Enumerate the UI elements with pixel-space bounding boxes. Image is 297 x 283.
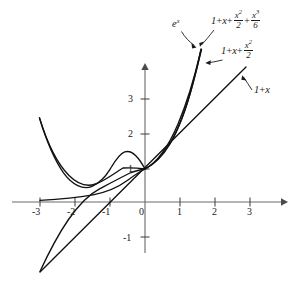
cubic-plus-3: +	[244, 15, 250, 26]
quad-plus-2: +	[237, 45, 243, 56]
quad-fraction-1: x22	[244, 41, 253, 61]
y-axis-tick-label: 3	[128, 94, 133, 104]
label-cubic-taylor: 1+x+x22+x36	[211, 11, 261, 31]
taylor-polynomial-figure: ex 1+x+x22+x36 1+x+x22 1+x -3-2-10123 32…	[0, 0, 297, 283]
quad-num-1-sup: 2	[249, 38, 252, 45]
axes-group	[12, 63, 288, 253]
curves-group	[40, 49, 247, 272]
y-axis-arrow	[141, 63, 148, 70]
curve-cubic	[40, 50, 202, 272]
cubic-num-2-sup: 3	[256, 8, 259, 15]
y-axis-tick-label: 1	[128, 164, 133, 174]
lin-term-2: x	[265, 84, 270, 95]
y-axis-tick-label: 2	[128, 129, 133, 139]
x-axis-tick-label: 2	[212, 207, 217, 217]
cubic-plus-2: +	[227, 15, 233, 26]
x-axis-tick-label: 1	[177, 207, 182, 217]
x-axis-arrow	[281, 198, 288, 205]
label-linear-taylor: 1+x	[254, 85, 270, 96]
x-axis-tick-label: -2	[67, 207, 75, 217]
leader-exp	[182, 32, 195, 46]
x-axis-tick-label: -1	[102, 207, 110, 217]
label-quadratic-taylor: 1+x+x22	[221, 41, 254, 61]
curve-quadratic-right	[40, 52, 201, 185]
label-exp-exponent: x	[177, 17, 180, 24]
cubic-den-2: 6	[251, 20, 260, 30]
cubic-num-1-sup: 2	[239, 8, 242, 15]
quad-den-1: 2	[244, 50, 253, 60]
x-axis-tick-label: 0	[139, 207, 144, 217]
x-axis-tick-label: -3	[32, 207, 40, 217]
x-axis-tick-label: 3	[247, 207, 252, 217]
y-axis-tick-label: -1	[123, 233, 131, 243]
cubic-fraction-1: x22	[234, 11, 243, 31]
cubic-den-1: 2	[234, 20, 243, 30]
leader-cubic	[202, 30, 215, 45]
cubic-fraction-2: x36	[251, 11, 260, 31]
label-exponential: ex	[172, 19, 180, 30]
